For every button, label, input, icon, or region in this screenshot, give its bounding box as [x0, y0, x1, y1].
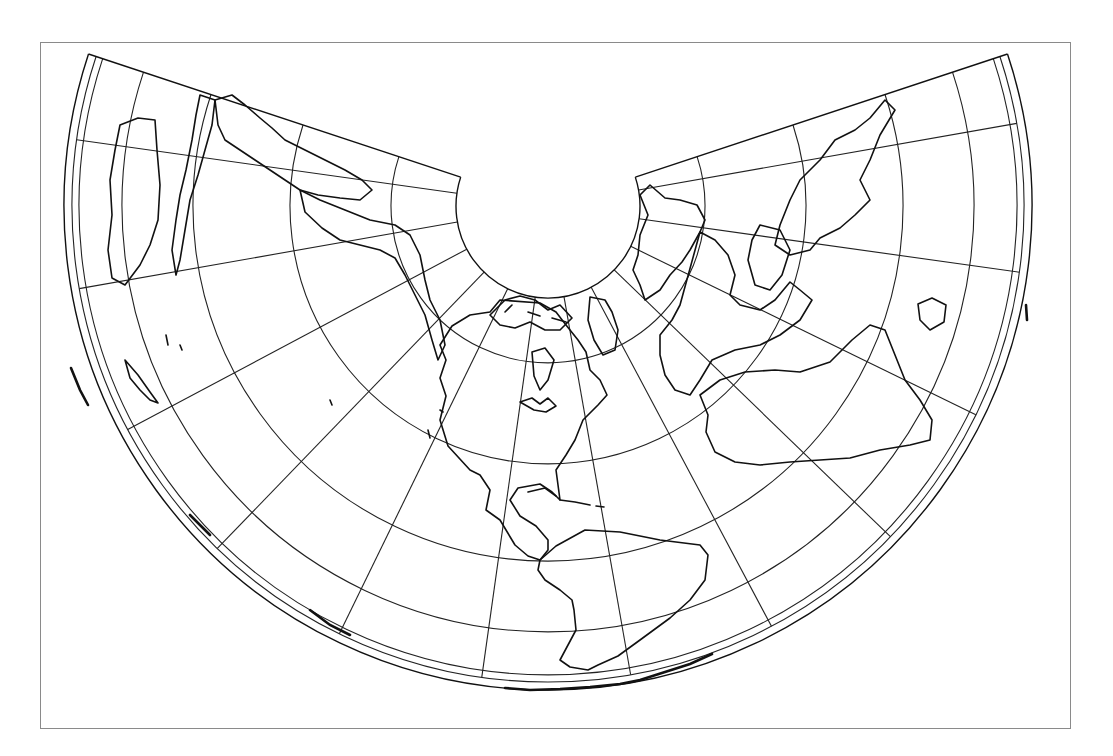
coast-africa: [700, 325, 932, 465]
parallel-line: [72, 57, 1024, 683]
coast-scandinavia: [633, 185, 705, 300]
meridian-line: [591, 287, 771, 626]
left-cone-edge: [88, 54, 460, 177]
coast-asia-north: [775, 100, 895, 255]
inner-boundary-arc: [456, 177, 640, 298]
graticule: [72, 57, 1024, 683]
coast-caribbean: [528, 488, 604, 507]
meridian-line: [482, 297, 535, 677]
map-boundary: [64, 54, 1032, 690]
meridian-line: [564, 297, 631, 675]
coast-hudson-bay: [532, 348, 554, 390]
meridian-line: [77, 140, 457, 193]
conic-world-map: [0, 0, 1113, 756]
antarctica-right: [1026, 305, 1027, 320]
antarctica-bottom-left: [190, 515, 350, 635]
coast-madagascar: [918, 298, 946, 330]
meridian-line: [339, 289, 507, 634]
antarctica-left: [71, 368, 88, 405]
coast-arabia: [748, 225, 790, 290]
meridian-line: [631, 246, 976, 414]
outer-boundary-arc: [64, 54, 1032, 690]
coast-south-america: [538, 530, 708, 670]
figure-caption: [150, 744, 970, 756]
coast-siberia: [215, 95, 372, 200]
coast-great-lakes: [520, 398, 556, 412]
meridian-line: [79, 222, 457, 289]
coast-greenland: [588, 297, 618, 355]
coastlines: [71, 95, 1027, 690]
meridian-line: [128, 249, 467, 429]
coast-australia: [108, 118, 160, 285]
